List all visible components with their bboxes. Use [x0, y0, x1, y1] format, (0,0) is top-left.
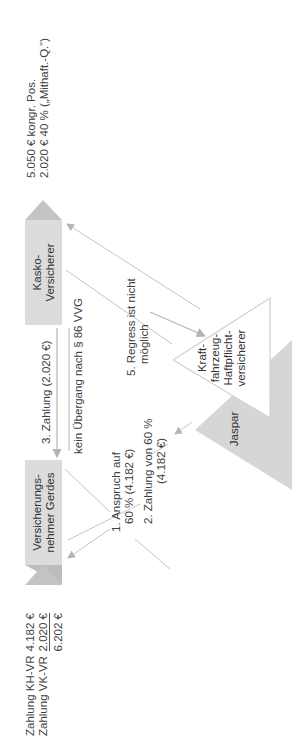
summary-value: 4.182 € [24, 609, 37, 651]
node-label: versicherer [235, 318, 248, 398]
node-label: nehmer Gerdes [44, 473, 57, 553]
node-label: Kraft- [196, 318, 209, 398]
note-line: 2.020 € 40 % („Mithaft.-Q.“) [38, 38, 51, 178]
insurance-diagram: Zahlung KH-VR4.182 € Zahlung VK-VR2.020 … [0, 0, 292, 744]
node-kfz-haftpflichtversicherer: Kraft- fahrzeug- Haftpflicht- versichere… [196, 318, 248, 398]
flow-step2-label: 2. Zahlung von 60 % (4.182 €) [142, 419, 168, 525]
flow-step1-label: 1. Anspruch auf 60 % (4.182 €) [110, 449, 136, 532]
node-label: Versicherer [44, 243, 57, 301]
flow-text: 5. Regress ist nicht [125, 278, 138, 376]
node-kasko-versicherer: Kasko-Versicherer [25, 220, 62, 325]
payment-summary: Zahlung KH-VR4.182 € Zahlung VK-VR2.020 … [24, 609, 65, 736]
flow-step5-label: 5. Regress ist nicht möglich [125, 278, 151, 376]
flow-no-transfer-label: kein Übergang nach § 86 VVG [72, 298, 85, 454]
summary-label: Zahlung VK-VR [37, 651, 50, 736]
node-label: Haftpflicht- [222, 318, 235, 398]
kasko-marker-triangle [25, 200, 62, 220]
flow-text: 60 % (4.182 €) [123, 449, 136, 532]
node-label: fahrzeug- [209, 318, 222, 398]
summary-total: 6.202 € [49, 609, 65, 651]
flow-text: 2. Zahlung von 60 % [142, 419, 155, 525]
node-versicherungsnehmer-gerdes: Versicherungs-nehmer Gerdes [25, 460, 62, 565]
node-label: Versicherungs- [31, 473, 44, 553]
flow-text: 1. Anspruch auf [110, 449, 123, 532]
node-jaspar: Jaspar [228, 404, 241, 454]
summary-label: Zahlung KH-VR [24, 651, 37, 736]
summary-value: 2.020 € [37, 613, 50, 651]
node-label: Kasko- [31, 243, 44, 301]
position-notes: 5.050 € kongr. Pos. 2.020 € 40 % („Mitha… [25, 38, 51, 178]
note-line: 5.050 € kongr. Pos. [25, 38, 38, 178]
flow-text: möglich [138, 278, 151, 376]
flow-step3-label: 3. Zahlung (2.020 €) [40, 340, 53, 444]
flow-text: (4.182 €) [155, 419, 168, 525]
